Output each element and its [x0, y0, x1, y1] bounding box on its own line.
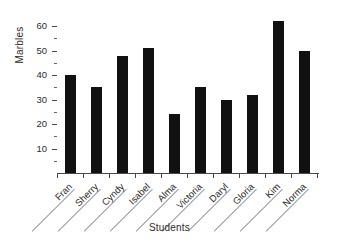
bar	[247, 95, 258, 173]
x-tick	[317, 174, 318, 178]
bar	[169, 114, 180, 173]
x-tick	[239, 174, 240, 178]
x-tick	[187, 174, 188, 178]
y-tick-label: 40	[23, 70, 47, 79]
y-tick-label: 20	[23, 119, 47, 128]
plot-area	[57, 14, 316, 173]
bar	[221, 100, 232, 173]
x-tick	[109, 174, 110, 178]
x-tick	[291, 174, 292, 178]
bar	[273, 21, 284, 173]
x-tick	[135, 174, 136, 178]
x-tick	[57, 174, 58, 178]
bar-chart: Marbles 102030405060 FranSherryCyndyIsab…	[0, 0, 339, 243]
bar	[65, 75, 76, 173]
bar	[91, 87, 102, 173]
x-tick	[161, 174, 162, 178]
y-tick-label: 30	[23, 95, 47, 104]
bar	[299, 51, 310, 173]
bar	[195, 87, 206, 173]
bars-layer	[57, 14, 317, 173]
x-axis-line	[57, 173, 319, 174]
bar	[117, 56, 128, 173]
x-axis-title: Students	[0, 222, 339, 233]
x-tick	[213, 174, 214, 178]
x-tick	[83, 174, 84, 178]
bar	[143, 48, 154, 173]
y-tick-label: 60	[23, 21, 47, 30]
x-tick	[265, 174, 266, 178]
y-tick-label: 10	[23, 144, 47, 153]
y-tick-label: 50	[23, 46, 47, 55]
